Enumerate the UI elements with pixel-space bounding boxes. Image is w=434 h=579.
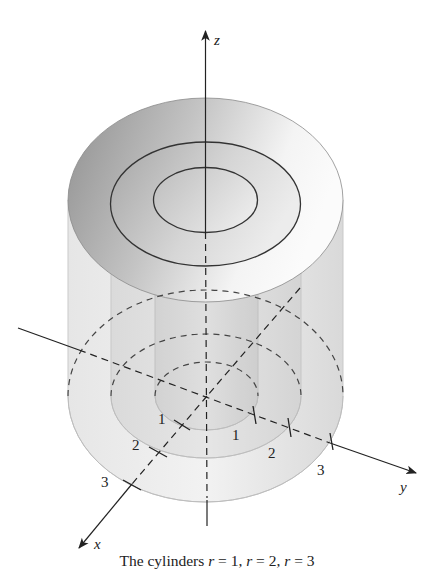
caption-prefix: The cylinders <box>119 552 208 569</box>
y-tick-3: 3 <box>317 462 325 478</box>
x-axis-front <box>79 484 132 548</box>
x-tick-1: 1 <box>158 411 166 427</box>
z-axis-label: z <box>213 32 220 48</box>
x-tick-3: 3 <box>101 474 109 490</box>
cylinders-diagram: 1 2 3 1 2 3 z y x <box>0 0 434 579</box>
x-axis-label: x <box>93 536 101 552</box>
y-axis-right <box>330 443 416 473</box>
caption-eq-2: = 2, <box>252 552 284 569</box>
figure-caption: The cylinders r = 1, r = 2, r = 3 <box>0 552 434 570</box>
caption-eq-3: = 3 <box>290 552 314 569</box>
caption-eq-1: = 1, <box>214 552 246 569</box>
y-tick-1: 1 <box>232 427 240 443</box>
y-axis-label: y <box>398 479 407 495</box>
x-tick-2: 2 <box>132 437 140 453</box>
y-tick-2: 2 <box>268 445 276 461</box>
